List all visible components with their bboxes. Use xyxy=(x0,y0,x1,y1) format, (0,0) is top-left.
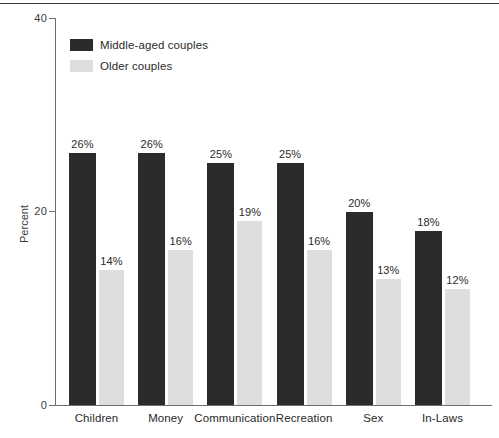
legend-swatch-middle-aged-couples xyxy=(70,39,93,51)
bar-value-label: 14% xyxy=(92,255,132,267)
bar-value-label: 13% xyxy=(368,264,408,276)
bar-value-label: 25% xyxy=(201,148,241,160)
bar-value-label: 26% xyxy=(63,138,103,150)
bar-value-label: 20% xyxy=(339,197,379,209)
bar-in-laws-middle-aged xyxy=(415,231,442,405)
bar-money-older xyxy=(168,250,193,405)
x-axis-label-in-laws: In-Laws xyxy=(393,412,493,424)
legend-swatch-older-couples xyxy=(70,60,93,72)
y-tick-20 xyxy=(49,211,55,212)
top-divider xyxy=(0,3,499,4)
bar-children-older xyxy=(99,270,124,405)
y-axis-title: Percent xyxy=(18,194,30,254)
bar-children-middle-aged xyxy=(69,153,96,405)
y-tick-40 xyxy=(49,18,55,19)
bar-sex-older xyxy=(376,279,401,405)
y-tick-0 xyxy=(49,405,55,406)
chart-legend: Middle-aged couples Older couples xyxy=(70,37,208,79)
bar-communication-middle-aged xyxy=(207,163,234,405)
bar-value-label: 19% xyxy=(230,206,270,218)
legend-label-older-couples: Older couples xyxy=(100,60,172,72)
bar-value-label: 12% xyxy=(438,274,478,286)
legend-label-middle-aged-couples: Middle-aged couples xyxy=(100,39,208,51)
bar-in-laws-older xyxy=(445,289,470,405)
bar-recreation-older xyxy=(307,250,332,405)
legend-item-middle-aged-couples: Middle-aged couples xyxy=(70,37,208,52)
x-axis-line xyxy=(55,405,492,406)
bar-value-label: 25% xyxy=(270,148,310,160)
y-tick-label-0: 0 xyxy=(5,399,47,411)
bar-chart-figure: 40 20 0 Percent Middle-aged couples Olde… xyxy=(0,0,499,438)
legend-item-older-couples: Older couples xyxy=(70,58,208,73)
bar-money-middle-aged xyxy=(138,153,165,405)
bar-recreation-middle-aged xyxy=(277,163,304,405)
bar-communication-older xyxy=(237,221,262,405)
bar-value-label: 26% xyxy=(132,138,172,150)
y-axis-line xyxy=(55,18,56,406)
bar-value-label: 16% xyxy=(299,235,339,247)
y-tick-label-40: 40 xyxy=(5,12,47,24)
bar-value-label: 16% xyxy=(161,235,201,247)
bar-sex-middle-aged xyxy=(346,212,373,406)
bar-value-label: 18% xyxy=(409,216,449,228)
